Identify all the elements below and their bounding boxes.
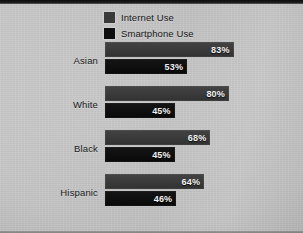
bar-group-hispanic: Hispanic 64% 46% xyxy=(0,172,303,216)
legend-swatch-smartphone-use xyxy=(104,28,115,39)
legend-label-internet-use: Internet Use xyxy=(121,12,174,23)
chart-legend: Internet Use Smartphone Use xyxy=(104,11,194,43)
bar-value-white-smartphone-use: 45% xyxy=(152,106,171,116)
bar-value-black-internet-use: 68% xyxy=(188,133,207,143)
bar-asian-internet-use: 83% xyxy=(105,42,234,57)
bar-value-black-smartphone-use: 45% xyxy=(152,150,171,160)
bar-white-smartphone-use: 45% xyxy=(105,103,175,118)
bar-value-asian-smartphone-use: 53% xyxy=(165,62,184,72)
category-label-hispanic: Hispanic xyxy=(0,187,98,198)
photo-top-edge xyxy=(0,0,303,4)
bar-hispanic-internet-use: 64% xyxy=(105,174,204,189)
legend-swatch-internet-use xyxy=(104,12,115,23)
bar-group-white: White 80% 45% xyxy=(0,84,303,128)
bar-black-smartphone-use: 45% xyxy=(105,147,175,162)
bar-white-internet-use: 80% xyxy=(105,86,229,101)
bar-value-hispanic-internet-use: 64% xyxy=(182,177,201,187)
photo-bottom-edge xyxy=(0,231,303,233)
bar-black-internet-use: 68% xyxy=(105,130,210,145)
bar-value-white-internet-use: 80% xyxy=(206,89,225,99)
category-label-black: Black xyxy=(0,143,98,154)
category-label-asian: Asian xyxy=(0,55,98,66)
bar-hispanic-smartphone-use: 46% xyxy=(105,191,176,206)
bar-group-black: Black 68% 45% xyxy=(0,128,303,172)
chart-plot-area: Asian 83% 53% White 80% 45% Black 68% 45… xyxy=(0,40,303,230)
legend-item-smartphone-use: Smartphone Use xyxy=(104,27,194,40)
bar-asian-smartphone-use: 53% xyxy=(105,59,187,74)
chart-screenshot: Internet Use Smartphone Use Asian 83% 53… xyxy=(0,0,303,233)
legend-label-smartphone-use: Smartphone Use xyxy=(121,28,194,39)
bar-value-hispanic-smartphone-use: 46% xyxy=(154,194,173,204)
bar-value-asian-internet-use: 83% xyxy=(211,45,230,55)
legend-item-internet-use: Internet Use xyxy=(104,11,194,24)
bar-group-asian: Asian 83% 53% xyxy=(0,40,303,84)
category-label-white: White xyxy=(0,99,98,110)
